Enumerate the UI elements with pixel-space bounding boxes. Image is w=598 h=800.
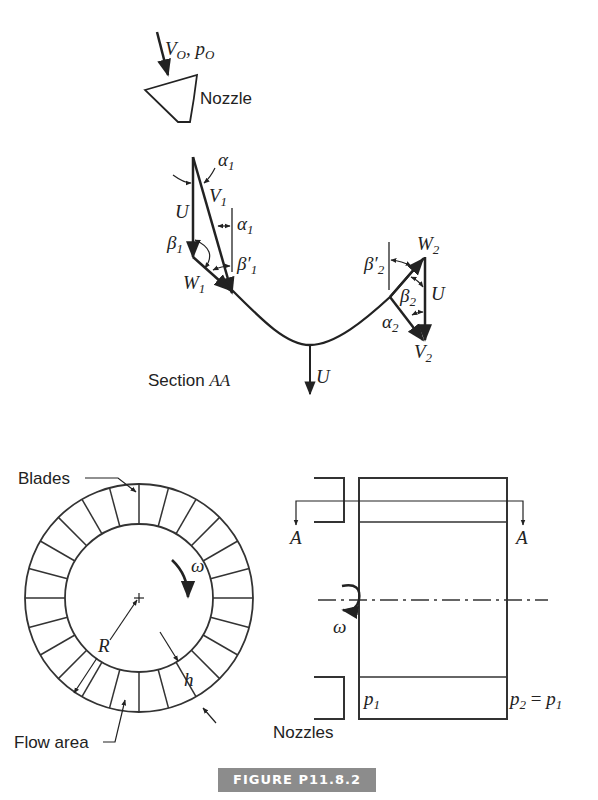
blade-divider xyxy=(29,617,68,627)
blade-divider xyxy=(40,635,75,655)
blade-divider xyxy=(210,617,249,627)
w1-label: W1 xyxy=(183,272,205,296)
blade-divider xyxy=(203,541,238,561)
blade-divider xyxy=(29,568,68,578)
nozzle-shape xyxy=(145,75,197,122)
blade-divider xyxy=(58,650,86,678)
blade-divider xyxy=(191,650,219,678)
nozzle-label: Nozzle xyxy=(200,89,252,108)
section-a-right-label: A xyxy=(514,527,528,548)
omega-label-side: ω xyxy=(333,616,346,637)
blade-divider xyxy=(158,488,168,527)
inlet-velocity-triangle xyxy=(173,157,232,293)
radius-label: R xyxy=(97,635,110,656)
u-outlet-label: U xyxy=(431,283,446,304)
radius-arrow xyxy=(110,600,137,640)
beta1-prime-label: β′1 xyxy=(236,253,257,277)
blades-label: Blades xyxy=(18,469,70,488)
blade-divider xyxy=(176,499,196,534)
v1-label: V1 xyxy=(209,185,227,209)
alpha1-label-side: α1 xyxy=(237,213,253,237)
alpha2-label: α2 xyxy=(382,311,399,335)
beta1-label: β1 xyxy=(166,232,183,256)
beta2-prime-label: β′2 xyxy=(363,253,385,277)
inlet-velocity-label: VO, pO xyxy=(165,38,215,62)
blade-divider xyxy=(109,669,119,708)
blade-divider xyxy=(158,669,168,708)
blade-divider xyxy=(40,541,75,561)
turbine-diagram: VO, pO Nozzle α1 V1 U α1 β1 β′1 W1 U Sec… xyxy=(0,0,598,800)
v2-label: V2 xyxy=(414,341,433,365)
height-arrow-inner xyxy=(160,632,178,661)
section-aa-label: Section AA xyxy=(148,371,231,390)
blade-divider xyxy=(109,488,119,527)
height-arrow-outer xyxy=(203,708,216,723)
w2-label: W2 xyxy=(417,233,440,257)
flow-area-label: Flow area xyxy=(14,733,89,752)
blade-divider xyxy=(82,662,102,697)
height-label: h xyxy=(184,669,194,690)
rotor-side-view xyxy=(359,478,507,719)
omega-rotation-side-arrow xyxy=(342,585,359,610)
blade-divider xyxy=(210,568,249,578)
nozzles-label: Nozzles xyxy=(273,723,333,742)
p1-label: p1 xyxy=(362,688,380,712)
u-inlet-label: U xyxy=(175,201,190,222)
blade-divider xyxy=(82,499,102,534)
figure-canvas: VO, pO Nozzle α1 V1 U α1 β1 β′1 W1 U Sec… xyxy=(0,0,598,800)
beta2-label: β2 xyxy=(399,285,416,309)
omega-label-wheel: ω xyxy=(191,555,204,576)
blade-speed-label: U xyxy=(316,366,331,387)
blade-divider xyxy=(203,635,238,655)
nozzle-top-bracket xyxy=(314,478,344,522)
blade-divider xyxy=(191,517,219,545)
alpha1-label-top: α1 xyxy=(218,149,234,173)
section-a-left-label: A xyxy=(288,527,302,548)
blade-divider xyxy=(58,517,86,545)
figure-caption: FIGURE P11.8.2 xyxy=(218,768,376,792)
nozzle-bottom-bracket xyxy=(314,677,344,719)
omega-rotation-arrow xyxy=(172,560,188,597)
p2-equals-p1-label: p2 = p1 xyxy=(508,688,562,712)
